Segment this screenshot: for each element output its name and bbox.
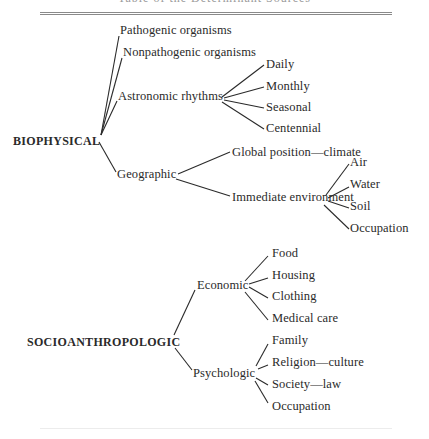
node-seasonal: Seasonal	[266, 100, 311, 114]
node-medical-care: Medical care	[272, 311, 338, 325]
node-society-law: Society—law	[272, 377, 341, 391]
node-clothing: Clothing	[272, 289, 317, 303]
node-air: Air	[350, 155, 367, 169]
node-economic: Economic	[197, 278, 248, 292]
node-pathogenic-organisms: Pathogenic organisms	[120, 23, 232, 37]
node-family: Family	[272, 333, 308, 347]
node-psychologic: Psychologic	[193, 366, 255, 380]
bottom-rule	[40, 428, 392, 429]
node-food: Food	[272, 246, 298, 260]
node-immediate-environment: Immediate environment	[232, 190, 354, 204]
node-religion-culture: Religion—culture	[272, 355, 364, 369]
node-centennial: Centennial	[266, 121, 321, 135]
node-monthly: Monthly	[266, 79, 310, 93]
node-global-position-climate: Global position—climate	[232, 145, 361, 159]
node-water: Water	[350, 177, 380, 191]
root-biophysical: BIOPHYSICAL	[13, 134, 100, 148]
node-occupation-psychologic: Occupation	[272, 399, 331, 413]
node-soil: Soil	[350, 199, 371, 213]
node-geographic: Geographic	[117, 167, 176, 181]
diagram-stage: Table of the Determinant Sources	[0, 0, 429, 439]
root-socioanthropologic: SOCIOANTHROPOLOGIC	[27, 335, 180, 349]
node-occupation-environment: Occupation	[350, 221, 409, 235]
node-nonpathogenic-organisms: Nonpathogenic organisms	[123, 45, 256, 59]
node-housing: Housing	[272, 268, 315, 282]
node-astronomic-rhythms: Astronomic rhythms	[118, 89, 223, 103]
node-daily: Daily	[266, 57, 294, 71]
